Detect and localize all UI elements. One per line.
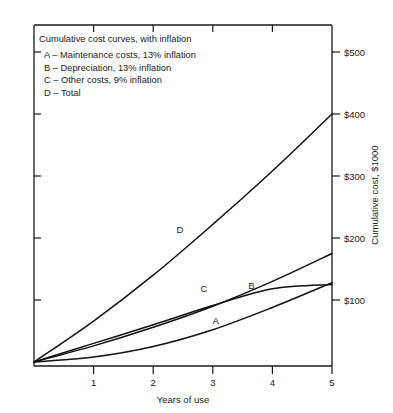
x-tick-label: 1 (91, 377, 96, 388)
y-tick-labels: $100 $200 $300 $400 $500 (344, 47, 365, 306)
curve-label-b: B (248, 280, 254, 291)
legend-title: Cumulative cost curves, with inflation (39, 34, 191, 44)
curve-label-c: C (200, 283, 207, 294)
legend-item: B – Depreciation, 13% inflation (44, 63, 171, 73)
y-tick-label: $500 (344, 47, 365, 58)
x-tick-label: 2 (151, 377, 156, 388)
legend-item: A – Maintenance costs, 13% inflation (44, 50, 196, 60)
legend-item: D – Total (44, 88, 81, 98)
curve-label-a: A (213, 315, 220, 326)
curves-layer (34, 114, 332, 362)
y-tick-label: $100 (344, 295, 365, 306)
y-tick-label: $400 (344, 109, 365, 120)
cumulative-cost-chart: $100 $200 $300 $400 $500 Cumulative cost… (0, 0, 393, 413)
x-tick-label: 4 (270, 377, 275, 388)
x-tick-label: 5 (329, 377, 334, 388)
legend-item: C – Other costs, 9% inflation (44, 75, 162, 85)
curve-label-d: D (177, 224, 184, 235)
y-tick-label: $300 (344, 171, 365, 182)
y-axis-title: Cumulative cost, $1000 (369, 145, 380, 244)
x-tick-labels: 1 2 3 4 5 (91, 377, 335, 388)
legend: Cumulative cost curves, with inflation A… (39, 34, 196, 98)
x-tick-label: 3 (210, 377, 215, 388)
x-axis-title: Years of use (157, 394, 209, 405)
curve-d (34, 114, 332, 362)
curve-b (34, 254, 332, 363)
curve-tags-layer: ABCD (177, 224, 255, 326)
y-tick-label: $200 (344, 233, 365, 244)
